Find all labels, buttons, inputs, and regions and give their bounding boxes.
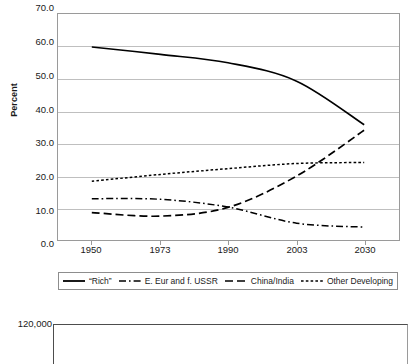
legend-item-china-india: China/India — [225, 276, 294, 286]
x-tick-label: 1950 — [63, 244, 119, 256]
legend-label: China/India — [251, 276, 294, 286]
plot-area — [57, 13, 400, 241]
data-series-layer — [58, 14, 399, 240]
x-tick-label: 2003 — [269, 244, 325, 256]
legend-item-rich: “Rich” — [63, 276, 112, 286]
chart-legend: “Rich” E. Eur and f. USSR China/India Ot… — [58, 272, 398, 290]
series-line-e-eur-and-f-ussr — [92, 199, 364, 228]
legend-item-other-developing: Other Developing — [301, 276, 393, 286]
y-axis-tick-labels: 70.0 60.0 50.0 40.0 30.0 20.0 10.0 0.0 — [10, 8, 54, 246]
legend-swatch-solid-icon — [63, 277, 85, 285]
y-tick-label: 120,000 — [4, 319, 52, 329]
x-tick-label: 1990 — [200, 244, 256, 256]
y-tick-label: 10.0 — [10, 206, 54, 216]
y-tick-label: 40.0 — [10, 105, 54, 115]
plot-area — [53, 324, 408, 364]
y-tick-label: 20.0 — [10, 172, 54, 182]
legend-swatch-dash-dot-icon — [119, 277, 141, 285]
y-tick-label: 30.0 — [10, 138, 54, 148]
x-tick-label: 1973 — [132, 244, 188, 256]
legend-label: Other Developing — [327, 276, 393, 286]
x-axis-tick-labels: 1950 1973 1990 2003 2030 — [57, 244, 400, 258]
legend-label: E. Eur and f. USSR — [145, 276, 218, 286]
y-tick-label: 60.0 — [10, 37, 54, 47]
series-line-rich — [92, 47, 364, 125]
series-line-china-india — [92, 130, 364, 216]
y-tick-label: 0.0 — [10, 239, 54, 249]
legend-label: “Rich” — [89, 276, 112, 286]
legend-swatch-long-dash-icon — [225, 277, 247, 285]
legend-swatch-dotted-icon — [301, 277, 323, 285]
second-chart-cropped: 120,000 — [0, 300, 416, 360]
legend-item-e-eur-and-f-ussr: E. Eur and f. USSR — [119, 276, 218, 286]
x-tick-label: 2030 — [337, 244, 393, 256]
y-tick-label: 70.0 — [10, 3, 54, 13]
y-tick-label: 50.0 — [10, 71, 54, 81]
series-line-other-developing — [92, 163, 364, 182]
percent-share-line-chart: Percent 70.0 60.0 50.0 40.0 30.0 20.0 10… — [0, 0, 416, 300]
